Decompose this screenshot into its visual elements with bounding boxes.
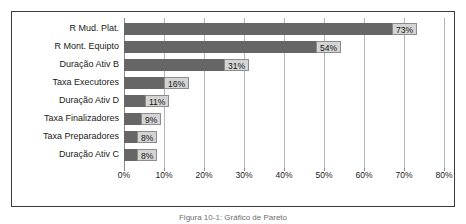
x-tick-label: 40% — [275, 170, 292, 180]
gridline — [364, 18, 365, 168]
chart-plot-wrapper: R Mud. Plat. R Mont. Equipto Duração Ati… — [12, 12, 454, 206]
x-tick-label: 60% — [355, 170, 372, 180]
bar-value-label: 9% — [141, 113, 161, 125]
x-tick-label: 30% — [235, 170, 252, 180]
category-label: Duração Ativ C — [12, 146, 119, 163]
category-label: Taxa Finalizadores — [12, 110, 119, 127]
category-label: Taxa Executores — [12, 74, 119, 91]
bar — [124, 23, 416, 35]
x-tick-label: 20% — [195, 170, 212, 180]
bar-value-label: 11% — [145, 95, 169, 107]
figure: R Mud. Plat. R Mont. Equipto Duração Ati… — [0, 0, 466, 224]
x-axis: 0%10%20%30%40%50%60%70%80% — [124, 170, 444, 184]
x-tick-label: 50% — [315, 170, 332, 180]
bar-value-label: 73% — [392, 23, 417, 35]
bar-value-label: 8% — [137, 149, 157, 161]
figure-caption: Figura 10-1: Gráfico de Pareto — [0, 213, 466, 224]
bar — [124, 41, 340, 53]
category-label: Duração Ativ B — [12, 56, 119, 73]
plot-area: 73%54%31%16%11%9%8%8% — [124, 18, 444, 168]
category-label: Taxa Preparadores — [12, 128, 119, 145]
chart-frame: R Mud. Plat. R Mont. Equipto Duração Ati… — [11, 11, 455, 207]
x-tick-label: 10% — [155, 170, 172, 180]
bar-value-label: 16% — [164, 77, 189, 89]
x-tick-label: 0% — [118, 170, 130, 180]
gridline — [444, 18, 445, 168]
category-label: R Mont. Equipto — [12, 38, 119, 55]
category-label: Duração Ativ D — [12, 92, 119, 109]
bar-value-label: 54% — [316, 41, 341, 53]
bar-value-label: 31% — [224, 59, 249, 71]
x-tick-label: 80% — [435, 170, 452, 180]
bar-value-label: 8% — [137, 131, 157, 143]
x-tick-label: 70% — [395, 170, 412, 180]
gridline — [404, 18, 405, 168]
category-label: R Mud. Plat. — [12, 20, 119, 37]
